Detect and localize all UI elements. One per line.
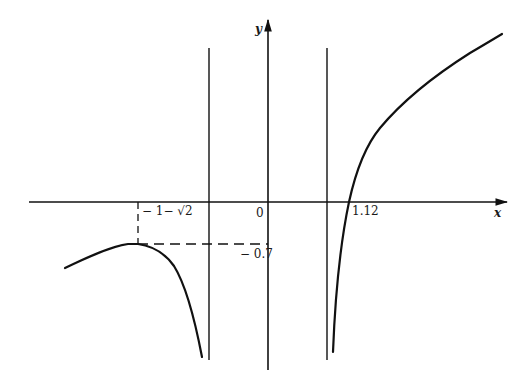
right-branch-curve	[333, 34, 502, 352]
x-intercept-label: 1.12	[352, 205, 379, 217]
local-max-x-label: − 1− √2	[142, 205, 193, 217]
left-branch-curve	[65, 244, 202, 357]
x-axis-label: x	[494, 207, 501, 219]
function-graph	[0, 0, 532, 391]
local-max-y-label: − 0.7	[240, 248, 273, 260]
y-axis-label: y	[255, 23, 262, 35]
origin-label: 0	[256, 207, 264, 219]
